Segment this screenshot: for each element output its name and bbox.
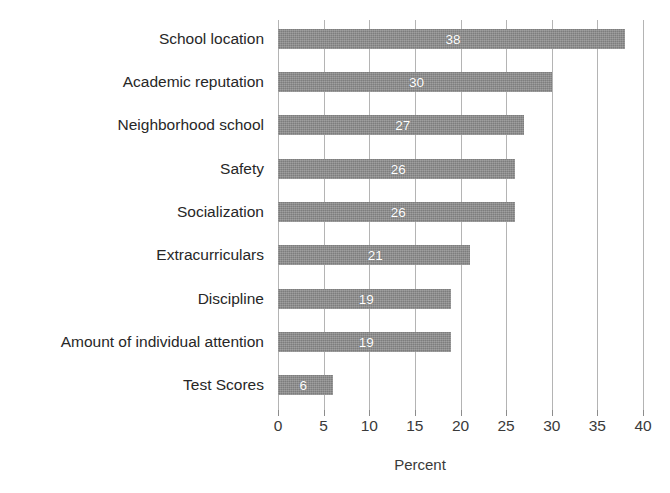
bar: 19 [278, 332, 451, 352]
x-tick-label: 5 [319, 417, 328, 435]
x-tick-label: 30 [543, 417, 560, 435]
category-label: Test Scores [0, 376, 272, 394]
bar: 30 [278, 72, 552, 92]
x-axis-label: Percent [0, 456, 670, 473]
bar-value-label: 26 [391, 205, 406, 220]
x-tick-label: 15 [406, 417, 423, 435]
x-axis-label-text: Percent [394, 456, 446, 473]
tickmark-10 [369, 410, 370, 416]
x-tick-label: 35 [589, 417, 606, 435]
bar: 26 [278, 159, 515, 179]
category-label: Academic reputation [0, 73, 272, 91]
x-tick-label: 40 [634, 417, 651, 435]
bar-value-label: 30 [409, 75, 424, 90]
category-label: Amount of individual attention [0, 333, 272, 351]
category-label: School location [0, 30, 272, 48]
bar-value-label: 21 [368, 248, 383, 263]
category-label: Discipline [0, 290, 272, 308]
tickmark-30 [552, 410, 553, 416]
bar-value-label: 6 [299, 378, 307, 393]
x-tick-label: 0 [274, 417, 283, 435]
tickmark-20 [461, 410, 462, 416]
tickmark-35 [597, 410, 598, 416]
bar: 27 [278, 115, 524, 135]
tickmark-0 [278, 410, 279, 416]
bar: 19 [278, 289, 451, 309]
tickmark-25 [506, 410, 507, 416]
bar: 6 [278, 375, 333, 395]
gridline-40 [643, 20, 644, 410]
x-tick-label: 10 [361, 417, 378, 435]
plot-area: 38302726262119196 [278, 20, 643, 410]
x-tick-label: 25 [498, 417, 515, 435]
bar-value-label: 38 [445, 31, 460, 46]
bar: 21 [278, 245, 470, 265]
category-label: Extracurriculars [0, 246, 272, 264]
bar-value-label: 19 [359, 291, 374, 306]
tickmark-40 [643, 410, 644, 416]
category-label: Socialization [0, 203, 272, 221]
gridline-30 [552, 20, 553, 410]
bar-value-label: 26 [391, 161, 406, 176]
bar-chart-figure: School locationAcademic reputationNeighb… [0, 0, 670, 493]
bar-value-label: 27 [395, 118, 410, 133]
bar: 26 [278, 202, 515, 222]
x-tick-label: 20 [452, 417, 469, 435]
chart-title [150, 0, 550, 3]
category-axis-labels: School locationAcademic reputationNeighb… [0, 20, 272, 410]
tickmark-5 [324, 410, 325, 416]
category-label: Neighborhood school [0, 116, 272, 134]
x-axis-tick-labels: 0510152025303540 [278, 417, 643, 439]
bar-value-label: 19 [359, 335, 374, 350]
gridline-35 [597, 20, 598, 410]
category-label: Safety [0, 160, 272, 178]
tickmark-15 [415, 410, 416, 416]
bar: 38 [278, 29, 625, 49]
